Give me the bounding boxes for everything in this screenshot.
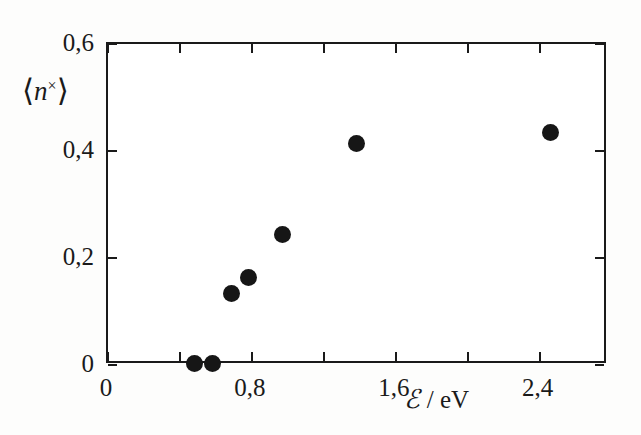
x-axis-tick-top <box>179 44 181 53</box>
plot-area <box>106 42 606 363</box>
x-axis-tick <box>395 352 397 361</box>
y-axis-tick-label: 0,4 <box>63 137 94 162</box>
data-point <box>186 355 203 372</box>
y-axis-superscript: × <box>48 77 57 94</box>
y-axis-angle-open: ⟨ <box>22 73 34 108</box>
y-axis-tick-label: 0,6 <box>63 30 94 55</box>
y-axis-tick <box>108 257 117 259</box>
x-axis-tick-top <box>467 44 469 53</box>
scatter-plot-figure: ⟨n×⟩ ℰ / eV 00,81,62,400,20,40,6 <box>0 0 641 435</box>
y-axis-tick <box>108 43 117 45</box>
data-point <box>274 226 291 243</box>
x-axis-tick <box>539 352 541 361</box>
x-axis-tick <box>179 352 181 361</box>
x-axis-tick-label: 0 <box>100 375 113 400</box>
x-axis-tick-label: 1,6 <box>378 375 409 400</box>
y-axis-tick <box>108 364 117 366</box>
x-axis-tick-top <box>251 44 253 53</box>
y-axis-tick-label: 0 <box>82 351 95 376</box>
x-axis-tick-top <box>107 44 109 53</box>
data-point <box>348 135 365 152</box>
y-axis-tick-right <box>595 257 604 259</box>
y-axis-tick-label: 0,2 <box>63 244 94 269</box>
x-axis-units: / eV <box>427 386 469 413</box>
x-axis-title: ℰ / eV <box>404 386 469 412</box>
y-axis-tick <box>108 150 117 152</box>
data-point <box>240 269 257 286</box>
y-axis-tick-right <box>595 150 604 152</box>
x-axis-tick-top <box>539 44 541 53</box>
x-axis-tick-top <box>395 44 397 53</box>
x-axis-tick-label: 0,8 <box>234 375 265 400</box>
y-axis-tick-right <box>595 364 604 366</box>
y-axis-angle-close: ⟩ <box>57 73 69 108</box>
x-axis-tick-label: 2,4 <box>522 375 553 400</box>
x-axis-tick <box>323 352 325 361</box>
x-axis-tick <box>467 352 469 361</box>
x-axis-tick <box>107 352 109 361</box>
x-axis-tick-top <box>323 44 325 53</box>
y-axis-tick-right <box>595 43 604 45</box>
x-axis-tick <box>251 352 253 361</box>
y-axis-variable: n <box>34 76 48 106</box>
data-point <box>204 355 221 372</box>
y-axis-title: ⟨n×⟩ <box>22 75 69 106</box>
